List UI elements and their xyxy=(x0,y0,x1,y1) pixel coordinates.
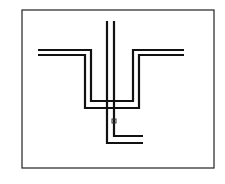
channel-line-u-inner xyxy=(38,50,184,101)
channel-paths xyxy=(38,21,184,143)
channel-line-vertical-left xyxy=(107,21,143,143)
diagram-canvas xyxy=(0,0,225,184)
diagram-frame xyxy=(22,10,214,168)
